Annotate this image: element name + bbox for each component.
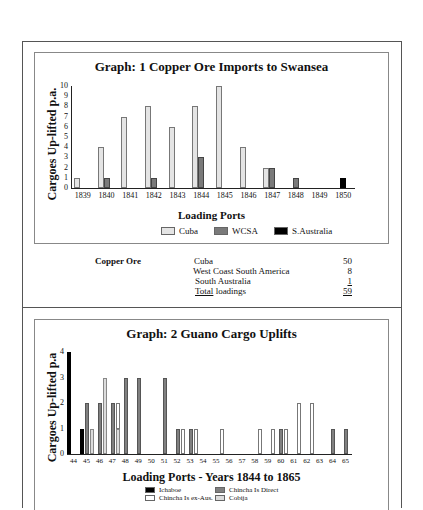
graph2-x-axis [67, 454, 352, 455]
graph1-y-tick: 5 [54, 133, 68, 141]
bar-ichaboe [80, 429, 84, 455]
bar-cobija [90, 429, 94, 455]
graph1-title: Graph: 1 Copper Ore Imports to Swansea [35, 59, 388, 75]
bar-ichaboe [67, 352, 71, 454]
graph2-xlabel: Loading Ports - Years 1844 to 1865 [35, 470, 388, 485]
bar-cuba [240, 147, 246, 188]
graph1-x-tick: 1846 [237, 191, 261, 200]
graph1-y-tick: 0 [54, 184, 68, 192]
legend-swatch-wcsa [214, 227, 228, 235]
graph1-y-tick: 4 [54, 143, 68, 151]
graph1-x-tick: 1849 [308, 191, 332, 200]
legend-swatch-cuba [161, 227, 175, 235]
graph1-x-tick: 1843 [166, 191, 190, 200]
graph2-x-tick: 50 [145, 457, 158, 466]
graph2-x-tick: 56 [222, 457, 235, 466]
graph2-x-tick: 45 [80, 457, 93, 466]
graph2-y-tick: 4 [50, 348, 64, 356]
bar-chincha-direct [124, 378, 128, 455]
graph1-y-tick: 8 [54, 102, 68, 110]
legend-swatch-ichaboe [145, 487, 155, 493]
bar-chincha-ex-aus [284, 429, 288, 455]
graph2-x-tick: 63 [313, 457, 326, 466]
graph1-y-tick: 7 [54, 113, 68, 121]
bar-cuba [145, 106, 151, 188]
bar-chincha-ex-aus [181, 429, 185, 455]
legend-label-chincha-ex-aus: Chincha Is ex-Aus. [159, 494, 213, 502]
graph2-y-tick: 0 [50, 450, 64, 458]
summary-label-sa: South Australia [195, 276, 251, 286]
graph2-x-tick: 49 [132, 457, 145, 466]
graph1-x-tick: 1842 [142, 191, 166, 200]
graph2-x-tick: 61 [287, 457, 300, 466]
bar-chincha-ex-aus [310, 403, 314, 454]
summary-value-sa: 1 [340, 276, 352, 286]
graph1-xlabel: Loading Ports [35, 209, 388, 221]
graph2-y-tick: 1 [50, 425, 64, 433]
legend-label-ichaboe: Ichaboe [159, 486, 181, 494]
summary-value-wcsa: 8 [340, 266, 352, 276]
graph2-title: Graph: 2 Guano Cargo Uplifts [35, 326, 388, 342]
graph2-x-tick: 47 [106, 457, 119, 466]
bar-chincha-direct [98, 403, 102, 454]
legend-swatch-chincha-ex-aus [145, 495, 155, 501]
graph2-x-tick: 65 [339, 457, 352, 466]
bar-chincha-direct [163, 378, 167, 455]
bar-chincha-ex-aus [194, 429, 198, 455]
bar-chincha-ex-aus [297, 403, 301, 454]
bar-s-australia [340, 178, 346, 188]
graph1-x-tick: 1841 [118, 191, 142, 200]
graph1-y-tick: 9 [54, 92, 68, 100]
bar-cobija [103, 378, 107, 455]
graph1-legend: Cuba WCSA S.Australia [161, 226, 332, 236]
graph2-x-tick: 46 [93, 457, 106, 466]
legend-swatch-cobija [215, 495, 225, 501]
bar-cuba [121, 117, 127, 188]
graph2-x-tick: 58 [248, 457, 261, 466]
legend-label-wcsa: WCSA [232, 226, 258, 236]
graph2-x-tick: 48 [119, 457, 132, 466]
graph1-x-tick: 1845 [213, 191, 237, 200]
bar-cuba [74, 178, 80, 188]
graph1-y-tick: 6 [54, 123, 68, 131]
graph2-x-tick: 44 [67, 457, 80, 466]
graph1-y-tick: 10 [54, 82, 68, 90]
summary-value-total: 59 [340, 286, 352, 296]
bar-cuba [216, 86, 222, 188]
graph2-x-tick: 62 [300, 457, 313, 466]
graph2-x-tick: 53 [184, 457, 197, 466]
graph2-y-tick: 2 [50, 399, 64, 407]
bar-chincha-ex-aus [258, 429, 262, 455]
graph2-legend: Ichaboe Chincha Is Direct Chincha Is ex-… [145, 486, 285, 502]
graph1-x-tick: 1840 [95, 191, 119, 200]
summary-label-cuba: Cuba [194, 256, 213, 266]
legend-label-s-australia: S.Australia [292, 226, 332, 236]
graph1-x-tick: 1850 [331, 191, 355, 200]
bar-chincha-direct [344, 429, 348, 455]
bar-chincha-direct [189, 429, 193, 455]
graph2-chart: Graph: 2 Guano Cargo Uplifts Cargoes Up-… [34, 319, 389, 510]
bar-chincha-direct [279, 429, 283, 455]
bar-chincha-direct [176, 429, 180, 455]
legend-label-cobija: Cobija [229, 494, 248, 502]
bar-wcsa [269, 168, 275, 188]
graph1-y-axis [71, 86, 72, 188]
bar-chincha-direct [111, 403, 115, 454]
bar-cobija [116, 429, 120, 455]
legend-swatch-s-australia [274, 227, 288, 235]
summary-label-total: Total loadings [195, 286, 246, 296]
graph2-x-tick: 60 [274, 457, 287, 466]
graph1-x-tick: 1847 [260, 191, 284, 200]
graph1-y-tick: 3 [54, 153, 68, 161]
bar-chincha-direct [331, 429, 335, 455]
bar-chincha-ex-aus [220, 429, 224, 455]
graph1-y-tick: 1 [54, 174, 68, 182]
bar-wcsa [293, 178, 299, 188]
bar-chincha-direct [85, 403, 89, 454]
bar-cuba [169, 127, 175, 188]
graph2-x-tick: 51 [158, 457, 171, 466]
bar-chincha-ex-aus [116, 403, 120, 429]
bar-chincha-ex-aus [271, 429, 275, 455]
legend-swatch-chincha-direct [215, 487, 225, 493]
graph1-x-tick: 1844 [189, 191, 213, 200]
